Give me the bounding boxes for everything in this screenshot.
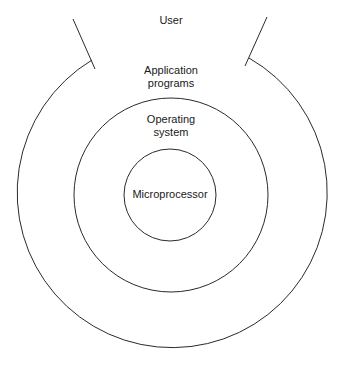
user-boundary-right <box>245 17 267 66</box>
microprocessor-label: Microprocessor <box>132 188 207 201</box>
application-layer-arc <box>17 58 327 348</box>
application-programs-label: Application programs <box>144 64 198 90</box>
user-boundary-left <box>73 19 95 69</box>
diagram-shapes <box>0 0 338 369</box>
user-label: User <box>159 14 182 27</box>
operating-system-label: Operating system <box>147 113 195 139</box>
layered-architecture-diagram: User Application programs Operating syst… <box>0 0 338 369</box>
